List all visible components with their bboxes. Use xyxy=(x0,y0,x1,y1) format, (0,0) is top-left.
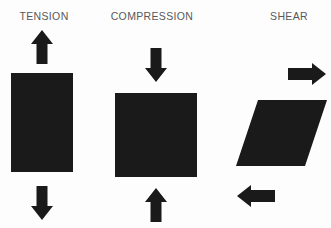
shear-arrow-right-icon xyxy=(288,63,326,85)
panel-label-compression: COMPRESSION xyxy=(101,10,203,22)
panel-label-tension: TENSION xyxy=(0,10,88,22)
panel-label-shear: SHEAR xyxy=(250,10,328,22)
shear-shapes xyxy=(0,0,331,228)
stress-types-diagram: TENSION COMPRESSION SHEAR xyxy=(0,0,331,228)
shear-arrow-left-icon xyxy=(237,185,275,207)
panel-shear xyxy=(215,0,331,228)
shear-body-parallelogram xyxy=(236,100,327,166)
